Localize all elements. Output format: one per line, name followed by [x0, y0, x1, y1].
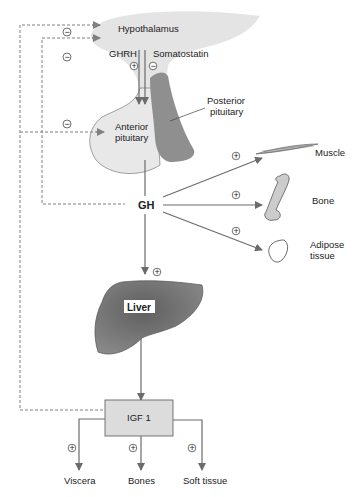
hypothalamus-label: Hypothalamus — [118, 23, 179, 34]
bones-label: Bones — [128, 475, 155, 486]
liver-label: Liver — [127, 302, 151, 313]
muscle-label: Muscle — [315, 147, 345, 158]
posterior-pituitary: Posterior pituitary — [150, 72, 245, 162]
bone-icon: Bone — [265, 174, 334, 220]
plus-sign: + — [234, 226, 239, 236]
plus-sign: + — [155, 267, 160, 277]
ghrh-plus-sign: + — [132, 61, 137, 71]
minus-sign: − — [65, 52, 70, 62]
posterior-pituitary-label-2: pituitary — [210, 106, 244, 117]
igf1-label: IGF 1 — [127, 412, 151, 423]
soft-tissue-label: Soft tissue — [183, 475, 227, 486]
minus-sign: − — [65, 119, 70, 129]
adipose-label-2: tissue — [310, 250, 335, 261]
plus-sign: + — [190, 443, 195, 453]
anterior-pituitary-label-2: pituitary — [115, 132, 149, 143]
posterior-pituitary-label-1: Posterior — [207, 95, 245, 106]
viscera-label: Viscera — [64, 475, 96, 486]
gh-target-arrows: + + + — [163, 151, 262, 250]
bone-label: Bone — [312, 195, 334, 206]
igf1-box: IGF 1 — [105, 400, 173, 436]
adipose-icon: Adipose tissue — [269, 239, 345, 262]
gh-regulation-diagram: Hypothalamus Anterior pituitary Posterio… — [0, 0, 358, 497]
plus-sign: + — [234, 190, 239, 200]
plus-sign: + — [70, 443, 75, 453]
somatostatin-minus-sign: − — [151, 61, 156, 71]
muscle-icon: Muscle — [256, 144, 345, 158]
ghrh-label: GHRH — [109, 48, 137, 59]
plus-sign: + — [234, 151, 239, 161]
somatostatin-label: Somatostatin — [153, 48, 208, 59]
anterior-pituitary-label-1: Anterior — [115, 121, 148, 132]
minus-sign: − — [65, 27, 70, 37]
liver-icon: Liver — [95, 281, 203, 354]
gh-label: GH — [138, 199, 155, 211]
adipose-label-1: Adipose — [310, 239, 344, 250]
feedback-minus-signs: − − − — [63, 27, 71, 129]
plus-sign: + — [131, 443, 136, 453]
